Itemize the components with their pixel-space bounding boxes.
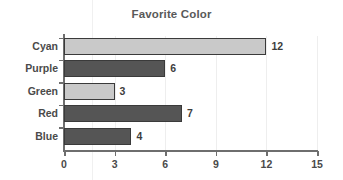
y-axis-tick — [59, 82, 64, 84]
bar-value-label: 3 — [120, 83, 126, 100]
gridline — [266, 36, 267, 150]
x-axis-tick — [266, 151, 268, 156]
x-axis-tick — [317, 151, 319, 156]
y-axis-tick — [59, 38, 64, 40]
x-axis-tick-label: 6 — [162, 158, 168, 170]
x-axis-tick-label: 12 — [261, 158, 273, 170]
bar-value-label: 7 — [187, 105, 193, 122]
x-axis-tick-label: 9 — [213, 158, 219, 170]
gridline — [317, 36, 318, 150]
bar-value-label: 6 — [170, 60, 176, 77]
bar — [64, 105, 182, 122]
category-label: Green — [0, 83, 58, 100]
bar-chart: Favorite Color CyanPurpleGreenRedBlue 12… — [0, 0, 343, 180]
y-axis-tick — [59, 60, 64, 62]
bar — [64, 60, 165, 77]
y-axis-tick — [59, 105, 64, 107]
y-axis-tick — [59, 127, 64, 129]
x-axis-tick — [165, 151, 167, 156]
category-label: Red — [0, 105, 58, 122]
category-label: Purple — [0, 60, 58, 77]
bar — [64, 128, 131, 145]
chart-title: Favorite Color — [0, 8, 343, 20]
x-axis-tick — [115, 151, 117, 156]
plot-area: 126374 — [64, 36, 317, 150]
x-axis-tick-label: 3 — [112, 158, 118, 170]
x-axis-tick-label: 0 — [61, 158, 67, 170]
category-axis-labels: CyanPurpleGreenRedBlue — [0, 36, 58, 150]
category-label: Blue — [0, 128, 58, 145]
bar — [64, 83, 115, 100]
category-label: Cyan — [0, 38, 58, 55]
x-axis-tick-label: 15 — [311, 158, 323, 170]
x-axis-tick — [64, 151, 66, 156]
bar — [64, 38, 266, 55]
x-axis-line — [63, 150, 318, 152]
bar-value-label: 4 — [136, 128, 142, 145]
x-axis-tick — [216, 151, 218, 156]
bar-value-label: 12 — [271, 38, 283, 55]
